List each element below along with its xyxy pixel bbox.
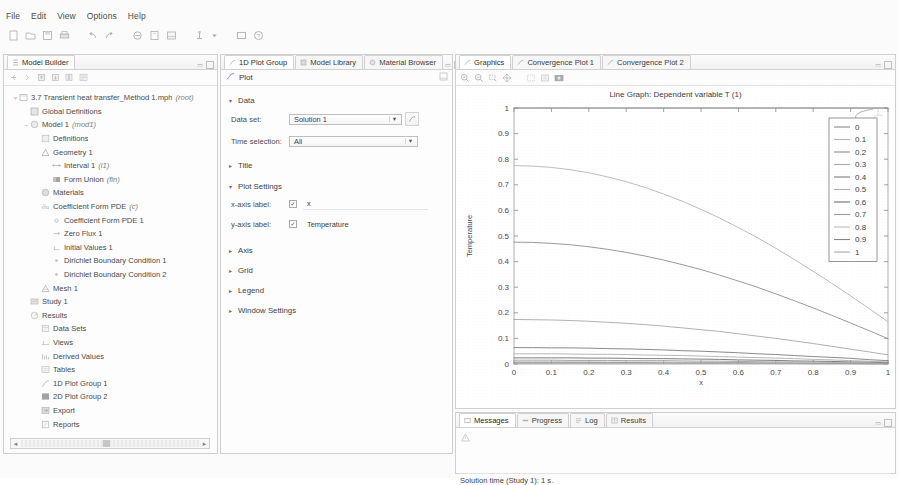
minimize-icon[interactable]: ▭ (445, 62, 451, 68)
tree-node[interactable]: Global Definitions (8, 105, 215, 119)
tree-node[interactable]: Derived Values (8, 349, 215, 363)
section-data[interactable]: ▾ Data (221, 93, 452, 108)
tree-node[interactable]: Data Sets (8, 322, 215, 336)
tab-material-browser[interactable]: Material Browser (364, 55, 443, 69)
section-axis[interactable]: ▸ Axis (221, 240, 452, 260)
tree-node[interactable]: Tables (8, 363, 215, 377)
time-selection-select[interactable]: All ▼ (289, 136, 418, 147)
tree-expander-icon[interactable]: – (23, 122, 30, 128)
section-legend[interactable]: ▸ Legend (221, 280, 452, 300)
select-icon[interactable] (526, 73, 536, 83)
minimize-icon[interactable]: ▭ (875, 420, 881, 426)
tree-node[interactable]: Results (8, 309, 215, 323)
save-icon[interactable] (41, 29, 53, 41)
paste-icon[interactable] (148, 29, 160, 41)
copy-icon[interactable] (131, 29, 143, 41)
tree-node[interactable]: Interval 1(i1) (8, 159, 215, 173)
graphics-canvas[interactable]: Line Graph: Dependent variable T (1) 00.… (456, 86, 895, 408)
settings-menu-icon[interactable] (439, 72, 448, 83)
move-up-icon[interactable] (36, 73, 46, 83)
tree-node[interactable]: –Model 1(mod1) (8, 118, 215, 132)
x-axis-label-input[interactable]: x (303, 199, 428, 210)
section-grid[interactable]: ▸ Grid (221, 260, 452, 280)
tab-model-builder[interactable]: Model Builder (7, 55, 75, 69)
section-window-settings[interactable]: ▸ Window Settings (221, 300, 452, 320)
tab-results[interactable]: Results (606, 413, 653, 427)
tab-progress[interactable]: Progress (517, 413, 569, 427)
image-snapshot-icon[interactable] (554, 73, 564, 83)
tree-node[interactable]: Reports (8, 417, 215, 431)
tree-node[interactable]: Definitions (8, 132, 215, 146)
zoom-extents-icon[interactable] (502, 73, 512, 83)
tree-node[interactable]: Coefficient Form PDE 1 (8, 213, 215, 227)
tree-node[interactable]: ▿3.7 Transient heat transfer_Method 1.mp… (8, 91, 215, 105)
data-set-go-button[interactable] (405, 112, 419, 126)
tree-expander-icon[interactable]: ▿ (12, 94, 19, 101)
zoom-box-icon[interactable] (488, 73, 498, 83)
menu-item-view[interactable]: View (57, 10, 76, 22)
model-tree[interactable]: ▿3.7 Transient heat transfer_Method 1.mp… (4, 86, 217, 458)
expand-icon[interactable] (22, 73, 32, 83)
build-icon[interactable] (193, 29, 205, 41)
model-tree-hscrollbar[interactable]: ◄ ► (10, 438, 210, 449)
scroll-thumb[interactable] (103, 440, 110, 447)
window-icon[interactable] (235, 29, 247, 41)
section-plot-settings[interactable]: ▾ Plot Settings (221, 179, 452, 194)
chevron-down-icon[interactable]: ▼ (389, 116, 399, 122)
y-axis-label-checkbox[interactable]: ✓ (289, 220, 297, 228)
tab-1d-plot-group[interactable]: 1D Plot Group (224, 55, 294, 69)
maximize-icon[interactable] (884, 419, 892, 427)
undo-icon[interactable] (86, 29, 98, 41)
scroll-track[interactable] (21, 440, 199, 447)
dropdown-arrow-icon[interactable] (210, 29, 219, 41)
tab-messages[interactable]: Messages (459, 413, 516, 427)
help-icon[interactable]: ? (252, 29, 264, 41)
tree-node[interactable]: Dirichlet Boundary Condition 1 (8, 254, 215, 268)
move-down-icon[interactable] (50, 73, 60, 83)
tree-node[interactable]: Geometry 1 (8, 145, 215, 159)
menu-item-file[interactable]: File (6, 10, 20, 22)
scroll-right-icon[interactable]: ► (200, 441, 209, 447)
tab-graphics[interactable]: Graphics (459, 55, 511, 69)
tree-node[interactable]: 1D Plot Group 1 (8, 376, 215, 390)
x-axis-label-checkbox[interactable]: ✓ (289, 200, 297, 208)
collapse-icon[interactable] (8, 73, 18, 83)
tab-convergence-plot-1[interactable]: Convergence Plot 1 (512, 55, 601, 69)
maximize-icon[interactable] (206, 61, 214, 69)
tree-node[interactable]: ∂uCoefficient Form PDE(c) (8, 200, 215, 214)
tree-node[interactable]: 2D Plot Group 2 (8, 390, 215, 404)
tree-node[interactable]: Materials (8, 186, 215, 200)
section-title-collapsed[interactable]: ▸ Title (221, 158, 452, 173)
delete-icon[interactable] (165, 29, 177, 41)
chevron-down-icon[interactable]: ▼ (405, 138, 415, 144)
minimize-icon[interactable]: ▭ (875, 62, 881, 68)
tree-node[interactable]: Study 1 (8, 295, 215, 309)
zoom-in-icon[interactable] (460, 73, 470, 83)
tab-convergence-plot-2[interactable]: Convergence Plot 2 (602, 55, 691, 69)
minimize-icon[interactable]: ▭ (197, 62, 203, 68)
data-set-select[interactable]: Solution 1 ▼ (289, 114, 402, 125)
open-icon[interactable] (24, 29, 36, 41)
maximize-icon[interactable] (884, 61, 892, 69)
tree-node[interactable]: Dirichlet Boundary Condition 2 (8, 268, 215, 282)
scroll-left-icon[interactable]: ◄ (11, 441, 20, 447)
tree-node[interactable]: Mesh 1 (8, 281, 215, 295)
group-icon[interactable] (64, 73, 74, 83)
menu-item-options[interactable]: Options (87, 10, 117, 22)
print-icon[interactable] (58, 29, 70, 41)
zoom-out-icon[interactable] (474, 73, 484, 83)
tree-node[interactable]: Export (8, 404, 215, 418)
tree-node[interactable]: Form Union(fin) (8, 173, 215, 187)
menu-item-edit[interactable]: Edit (31, 10, 46, 22)
tree-node[interactable]: Initial Values 1 (8, 241, 215, 255)
tree-node[interactable]: Zero Flux 1 (8, 227, 215, 241)
tab-model-library[interactable]: Model Library (295, 55, 363, 69)
redo-icon[interactable] (103, 29, 115, 41)
messages-body[interactable] (456, 428, 895, 473)
menu-item-help[interactable]: Help (128, 10, 146, 22)
new-icon[interactable] (7, 29, 19, 41)
tree-node[interactable]: Views (8, 336, 215, 350)
transparency-icon[interactable] (540, 73, 550, 83)
settings-icon[interactable] (78, 73, 88, 83)
y-axis-label-input[interactable]: Temperature (303, 219, 428, 230)
